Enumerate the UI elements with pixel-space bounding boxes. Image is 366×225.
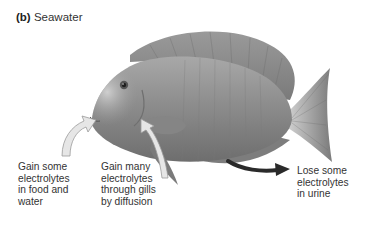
annotation-food: Gain some electrolytes in food and water <box>18 161 70 207</box>
gain-food-arrow-icon <box>62 116 96 156</box>
annotation-urine: Lose some electrolytes in urine <box>297 165 349 200</box>
annotation-gills: Gain many electrolytes through gills by … <box>101 161 156 207</box>
